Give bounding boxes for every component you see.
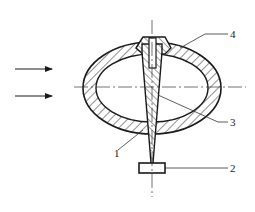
- label-1: 1: [114, 147, 120, 159]
- flow-arrows: [15, 69, 52, 96]
- cross-section-diagram: 1 2 3 4: [0, 0, 255, 212]
- label-2: 2: [230, 162, 236, 174]
- label-3: 3: [230, 116, 236, 128]
- label-4: 4: [230, 28, 236, 40]
